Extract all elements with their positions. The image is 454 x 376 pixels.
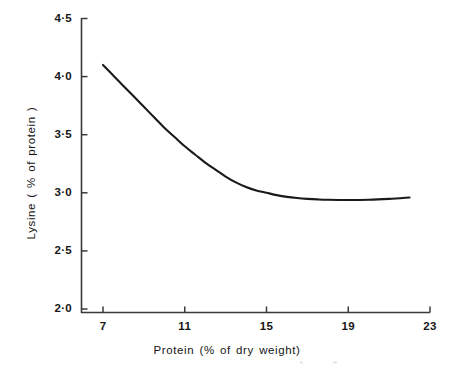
data-series-line: [103, 65, 410, 200]
axes-group: [81, 18, 430, 313]
scan-artifact: [300, 361, 303, 364]
y-axis-tick-label: 3·5: [38, 128, 72, 140]
x-axis-tick-label: 15: [252, 320, 282, 332]
figure-container: 2·02·53·03·54·04·5 711151923 Protein (% …: [0, 0, 454, 376]
y-axis-title: Lysine ( % of protein ): [25, 63, 37, 283]
y-axis-tick-label: 4·0: [38, 70, 72, 82]
x-axis-tick-label: 11: [170, 320, 200, 332]
x-axis-title: Protein (% of dry weight): [0, 344, 454, 356]
y-axis-ticks: [82, 19, 88, 310]
y-axis-tick-label: 3·0: [38, 186, 72, 198]
y-axis-tick-label: 2·0: [38, 302, 72, 314]
y-axis-tick-label: 2·5: [38, 244, 72, 256]
x-axis-ticks: [103, 307, 430, 313]
x-axis-tick-label: 19: [333, 320, 363, 332]
y-axis-tick-label: 4·5: [38, 12, 72, 24]
x-axis-tick-label: 7: [88, 320, 118, 332]
x-axis-tick-label: 23: [415, 320, 445, 332]
scan-artifact: [333, 361, 337, 364]
